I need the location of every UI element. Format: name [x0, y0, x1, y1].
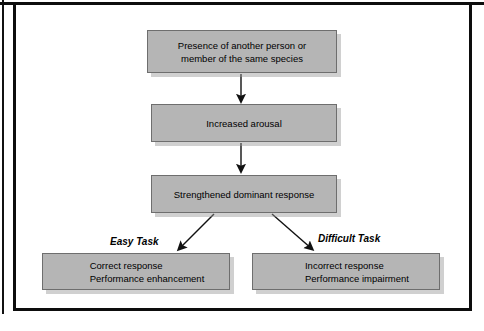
node-arousal-label: Increased arousal: [202, 117, 286, 130]
branch-label-easy-task: Easy Task: [110, 236, 159, 247]
node-difficult-outcome-label: Incorrect response Performance impairmen…: [279, 259, 413, 285]
node-easy-outcome-label: Correct response Performance enhancement: [64, 259, 209, 285]
node-difficult-outcome: Incorrect response Performance impairmen…: [252, 253, 440, 290]
node-arousal: Increased arousal: [151, 104, 337, 142]
branch-label-difficult-task: Difficult Task: [318, 233, 380, 244]
node-dominant-response-label: Strengthened dominant response: [170, 188, 319, 201]
node-presence: Presence of another person or member of …: [147, 30, 337, 73]
flowchart-figure: Presence of another person or member of …: [0, 0, 484, 331]
left-margin-rule: [2, 0, 4, 314]
node-dominant-response: Strengthened dominant response: [151, 175, 337, 213]
node-presence-label: Presence of another person or member of …: [174, 39, 310, 65]
node-easy-outcome: Correct response Performance enhancement: [42, 253, 230, 290]
